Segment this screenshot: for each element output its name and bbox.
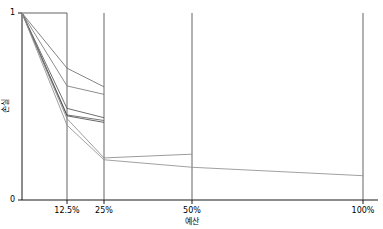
series-line-5 — [22, 13, 104, 122]
axes-group — [22, 13, 378, 200]
data-series-group — [22, 13, 363, 176]
series-line-4 — [22, 13, 104, 121]
x-tick-label-25: 25% — [95, 207, 113, 215]
x-tick-label-100: 100% — [352, 207, 375, 215]
series-line-6 — [22, 13, 192, 158]
series-line-1 — [22, 13, 104, 87]
y-tick-label-1: 1 — [2, 9, 15, 17]
x-tick-label-50: 50% — [183, 207, 201, 215]
chart-figure: 1 0 12.5% 25% 50% 100% 예산 손실 — [0, 0, 383, 229]
series-line-7 — [22, 13, 363, 176]
x-tick-label-12-5: 12.5% — [54, 207, 79, 215]
y-tick-label-0: 0 — [2, 196, 15, 204]
x-tick-marks — [67, 200, 363, 204]
series-line-2 — [22, 13, 104, 94]
y-tick-marks — [18, 13, 22, 200]
y-axis-title: 손실 — [2, 91, 10, 121]
line-chart-canvas — [0, 0, 383, 229]
vertical-gridlines — [67, 13, 363, 200]
x-axis-title: 예산 — [185, 218, 199, 226]
